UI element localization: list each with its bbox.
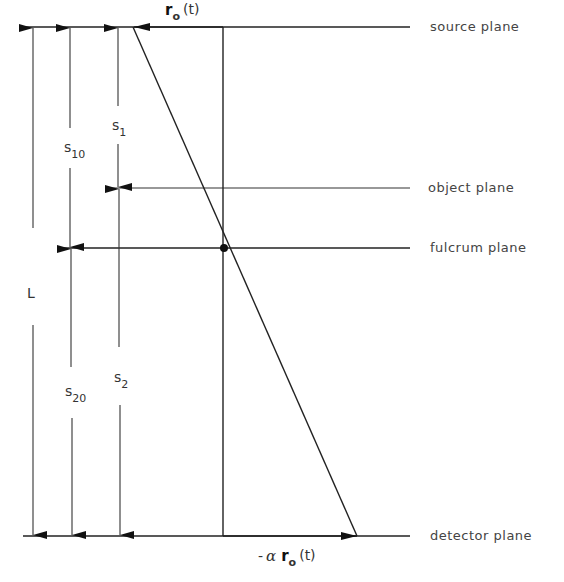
detector-plane-label: detector plane: [430, 528, 532, 543]
svg-text:ro(t): ro(t): [165, 1, 199, 23]
oblique-ray: [133, 27, 357, 536]
fulcrum-point: [220, 244, 228, 252]
dimension-s20-label: s20: [65, 383, 86, 405]
dimension-s1: s1: [112, 28, 126, 187]
svg-text:-αro(t): -αro(t): [258, 547, 316, 569]
fulcrum-plane-label: fulcrum plane: [430, 240, 527, 255]
dimension-L-label: L: [27, 285, 35, 301]
dimension-s10-label: s10: [64, 139, 85, 161]
source-vector-label: ro(t): [165, 1, 199, 23]
object-plane-label: object plane: [428, 180, 514, 195]
dimension-s20: s20: [65, 249, 86, 535]
dimension-s2-label: s2: [114, 369, 128, 391]
dimension-L: L: [27, 28, 35, 535]
dimension-s1-label: s1: [112, 117, 126, 139]
source-plane-label: source plane: [430, 19, 519, 34]
tomography-diagram: source plane object plane fulcrum plane …: [0, 0, 564, 582]
dimension-s10: s10: [64, 28, 85, 247]
dimension-s2: s2: [114, 189, 128, 535]
detector-vector-label: -αro(t): [258, 547, 316, 569]
